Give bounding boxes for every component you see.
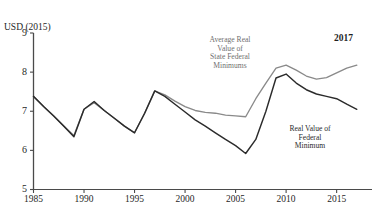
y-tick-label: 5	[13, 183, 27, 194]
x-tick-label: 1990	[66, 194, 102, 204]
x-tick-label: 2000	[167, 194, 203, 204]
annotation-federal: Real Value ofFederalMinimum	[258, 125, 362, 151]
y-tick-label: 7	[13, 105, 27, 116]
annotation-line: Minimums	[178, 62, 282, 71]
x-tick-label: 1995	[117, 194, 153, 204]
annotation-end-year: 2017	[334, 33, 353, 43]
y-tick-label: 6	[13, 144, 27, 155]
y-tick-label: 9	[13, 27, 27, 38]
x-tick-label: 2005	[218, 194, 254, 204]
annotation-state-federal: Average RealValue ofState FederalMinimum…	[178, 36, 282, 70]
chart-container: USD (2015) 98765 19851990199520002005201…	[0, 0, 377, 217]
y-tick-label: 8	[13, 66, 27, 77]
line-chart-plot	[0, 0, 377, 217]
annotation-line: Minimum	[258, 142, 362, 151]
x-tick-label: 2010	[268, 194, 304, 204]
x-tick-label: 1985	[16, 194, 52, 204]
x-tick-label: 2015	[319, 194, 355, 204]
